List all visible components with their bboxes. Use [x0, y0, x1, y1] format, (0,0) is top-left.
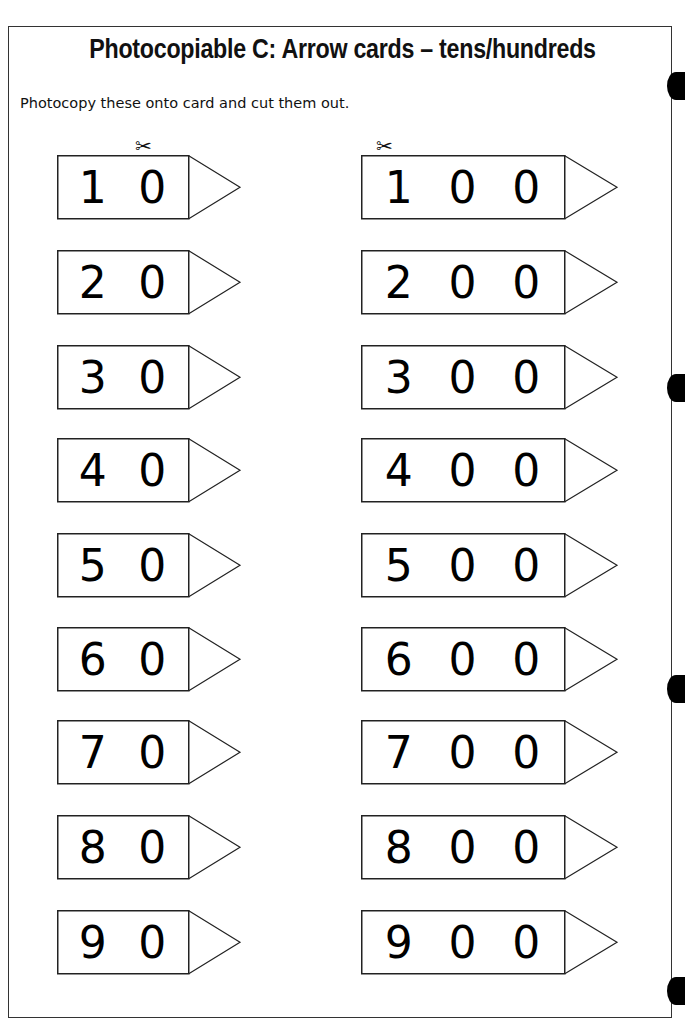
card-digit: 7: [79, 727, 107, 778]
card-digits: 50: [63, 533, 182, 597]
card-digit: 1: [385, 162, 413, 213]
page-title: Photocopiable C: Arrow cards – tens/hund…: [48, 34, 637, 65]
card-digit: 2: [385, 257, 413, 308]
card-digit: 7: [385, 727, 413, 778]
card-digit: 0: [512, 540, 540, 591]
card-digit: 1: [79, 162, 107, 213]
card-digits: 20: [63, 250, 182, 314]
card-digit: 0: [512, 162, 540, 213]
punch-hole-marker: [667, 675, 685, 703]
card-digit: 6: [79, 634, 107, 685]
card-digit: 0: [138, 257, 166, 308]
card-digit: 8: [79, 822, 107, 873]
card-digit: 0: [138, 634, 166, 685]
card-digit: 0: [448, 257, 476, 308]
card-digit: 0: [448, 445, 476, 496]
arrow-card-tens-30: 30: [57, 345, 240, 409]
card-digits: 30: [63, 345, 182, 409]
card-digits: 40: [63, 438, 182, 502]
arrow-card-hundreds-200: 200: [361, 250, 617, 314]
card-digits: 600: [367, 627, 558, 691]
punch-hole-marker: [667, 977, 685, 1005]
card-digits: 300: [367, 345, 558, 409]
card-digit: 4: [385, 445, 413, 496]
arrow-card-tens-60: 60: [57, 627, 240, 691]
arrow-card-hundreds-600: 600: [361, 627, 617, 691]
arrow-card-hundreds-500: 500: [361, 533, 617, 597]
card-digit: 0: [138, 162, 166, 213]
punch-hole-marker: [667, 72, 685, 100]
card-digit: 0: [138, 822, 166, 873]
arrow-card-tens-20: 20: [57, 250, 240, 314]
scissors-icon: ✂: [376, 136, 393, 156]
card-digits: 90: [63, 910, 182, 974]
card-digit: 0: [138, 917, 166, 968]
arrow-card-hundreds-100: 100: [361, 155, 617, 219]
card-digit: 0: [448, 540, 476, 591]
arrow-card-tens-90: 90: [57, 910, 240, 974]
card-digit: 0: [138, 352, 166, 403]
card-digit: 0: [512, 445, 540, 496]
card-digits: 60: [63, 627, 182, 691]
card-digit: 0: [138, 445, 166, 496]
card-digits: 80: [63, 815, 182, 879]
arrow-card-hundreds-700: 700: [361, 720, 617, 784]
card-digit: 9: [79, 917, 107, 968]
card-digit: 9: [385, 917, 413, 968]
arrow-card-tens-50: 50: [57, 533, 240, 597]
card-digits: 10: [63, 155, 182, 219]
card-digit: 0: [448, 634, 476, 685]
card-digit: 0: [512, 634, 540, 685]
card-digit: 3: [79, 352, 107, 403]
punch-hole-marker: [667, 374, 685, 402]
card-digit: 0: [448, 727, 476, 778]
card-digit: 0: [512, 917, 540, 968]
card-digit: 0: [448, 822, 476, 873]
card-digits: 900: [367, 910, 558, 974]
card-digit: 0: [448, 352, 476, 403]
arrow-card-tens-10: 10: [57, 155, 240, 219]
card-digit: 0: [448, 917, 476, 968]
instruction-text: Photocopy these onto card and cut them o…: [20, 95, 349, 111]
card-digit: 0: [448, 162, 476, 213]
card-digits: 500: [367, 533, 558, 597]
card-digit: 5: [79, 540, 107, 591]
arrow-card-hundreds-900: 900: [361, 910, 617, 974]
card-digit: 0: [138, 540, 166, 591]
card-digits: 70: [63, 720, 182, 784]
card-digit: 0: [512, 822, 540, 873]
card-digits: 200: [367, 250, 558, 314]
card-digit: 0: [138, 727, 166, 778]
card-digit: 3: [385, 352, 413, 403]
arrow-card-tens-40: 40: [57, 438, 240, 502]
arrow-card-hundreds-400: 400: [361, 438, 617, 502]
card-digit: 0: [512, 352, 540, 403]
card-digits: 400: [367, 438, 558, 502]
card-digit: 6: [385, 634, 413, 685]
card-digits: 800: [367, 815, 558, 879]
card-digits: 100: [367, 155, 558, 219]
card-digit: 0: [512, 257, 540, 308]
card-digits: 700: [367, 720, 558, 784]
card-digit: 4: [79, 445, 107, 496]
card-digit: 0: [512, 727, 540, 778]
arrow-card-hundreds-300: 300: [361, 345, 617, 409]
arrow-card-tens-70: 70: [57, 720, 240, 784]
card-digit: 8: [385, 822, 413, 873]
scissors-icon: ✂: [135, 136, 152, 156]
arrow-card-tens-80: 80: [57, 815, 240, 879]
card-digit: 2: [79, 257, 107, 308]
arrow-card-hundreds-800: 800: [361, 815, 617, 879]
card-digit: 5: [385, 540, 413, 591]
